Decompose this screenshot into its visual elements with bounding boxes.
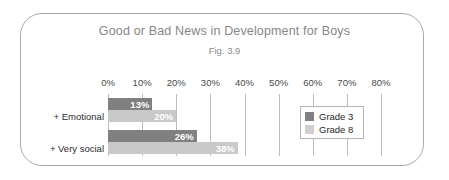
bar-value-label: 26%: [175, 131, 194, 142]
legend-label: Grade 3: [319, 111, 353, 122]
y-axis-category-labels: + Emotional+ Very social: [4, 0, 104, 180]
category-label: + Emotional: [8, 111, 104, 122]
gridline: [245, 94, 246, 156]
bar: 38%: [108, 142, 238, 154]
category-label: + Very social: [8, 143, 104, 154]
bar-value-label: 20%: [154, 111, 173, 122]
x-tick-label: 80%: [361, 77, 401, 88]
legend-label: Grade 8: [319, 124, 353, 135]
legend-item: Grade 8: [305, 123, 359, 136]
bar-value-label: 13%: [130, 99, 149, 110]
legend-swatch-icon: [305, 112, 314, 121]
gridline: [381, 94, 382, 156]
legend-swatch-icon: [305, 125, 314, 134]
bar: 13%: [108, 98, 152, 110]
chart-screenshot: Good or Bad News in Development for Boys…: [0, 0, 449, 180]
bar-value-label: 38%: [216, 143, 235, 154]
gridline: [279, 94, 280, 156]
bar: 20%: [108, 110, 176, 122]
chart-legend: Grade 3 Grade 8: [300, 106, 364, 139]
bar: 26%: [108, 130, 197, 142]
legend-item: Grade 3: [305, 110, 359, 123]
